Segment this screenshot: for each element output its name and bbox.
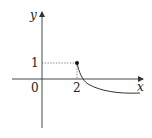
y-axis-label: y [29,8,37,22]
origin-label: 0 [31,81,39,95]
x-tick-label: 2 [73,81,81,95]
filled-point [75,61,79,65]
function-curve [77,63,140,93]
x-axis-label: x [137,80,144,94]
y-tick-label: 1 [31,56,39,70]
function-graph: y x 0 2 1 [0,0,152,138]
